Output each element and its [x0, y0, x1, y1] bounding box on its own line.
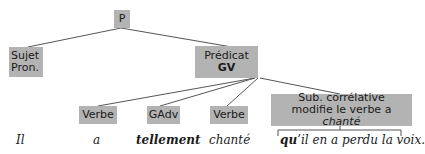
- node-gadv: GAdv: [147, 106, 180, 124]
- word-il-text: Il: [16, 133, 25, 147]
- node-sujet-line2: Pron.: [11, 62, 39, 74]
- node-verbe-2-label: Verbe: [213, 109, 245, 121]
- node-p: P: [114, 10, 130, 28]
- edge-p-predicat: [121, 28, 232, 47]
- word-subordinate-rest: ’il en a perdu la voix.: [297, 133, 425, 147]
- word-a-text: a: [93, 133, 100, 147]
- edge-p-sujet: [28, 28, 121, 47]
- node-verbe-1-label: Verbe: [82, 109, 114, 121]
- word-chante-text: chanté: [209, 133, 250, 147]
- node-predicat-line2: GV: [218, 62, 236, 74]
- node-gadv-label: GAdv: [149, 109, 178, 121]
- word-subordinate: qu’il en a perdu la voix.: [280, 133, 425, 147]
- node-verbe-2: Verbe: [210, 106, 248, 124]
- node-predicat: Prédicat GV: [195, 46, 258, 78]
- node-sub-line2: modifie le verbe a chanté: [271, 104, 412, 128]
- node-p-label: P: [119, 13, 126, 25]
- node-sujet: Sujet Pron.: [9, 47, 43, 77]
- word-il: Il: [16, 133, 25, 147]
- word-a: a: [93, 133, 100, 147]
- word-chante: chanté: [209, 133, 250, 147]
- word-tellement-text: tellement: [136, 133, 201, 147]
- node-sub-correlative: Sub. corrélative modifie le verbe a chan…: [271, 94, 412, 126]
- node-sub-line2-italic: chanté: [323, 115, 361, 128]
- word-qu-text: qu: [280, 133, 297, 147]
- node-verbe-1: Verbe: [79, 106, 117, 124]
- word-tellement: tellement: [136, 133, 201, 147]
